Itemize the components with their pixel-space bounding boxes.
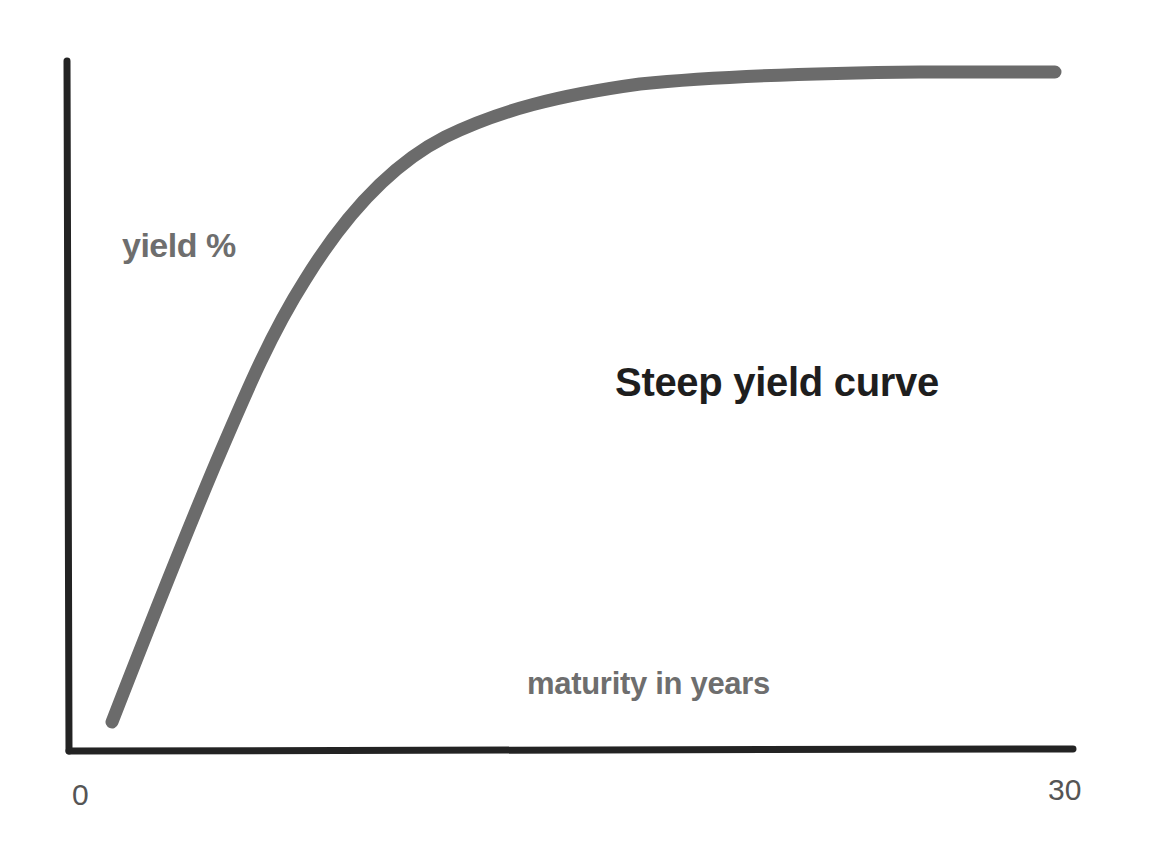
y-axis (67, 61, 69, 751)
yield-curve-chart (0, 0, 1154, 858)
chart-title: Steep yield curve (615, 362, 939, 402)
x-axis-label: maturity in years (527, 668, 770, 699)
x-axis (69, 749, 1073, 751)
x-tick-start: 0 (72, 780, 89, 810)
y-axis-label: yield % (122, 228, 236, 262)
x-tick-end: 30 (1048, 775, 1081, 805)
